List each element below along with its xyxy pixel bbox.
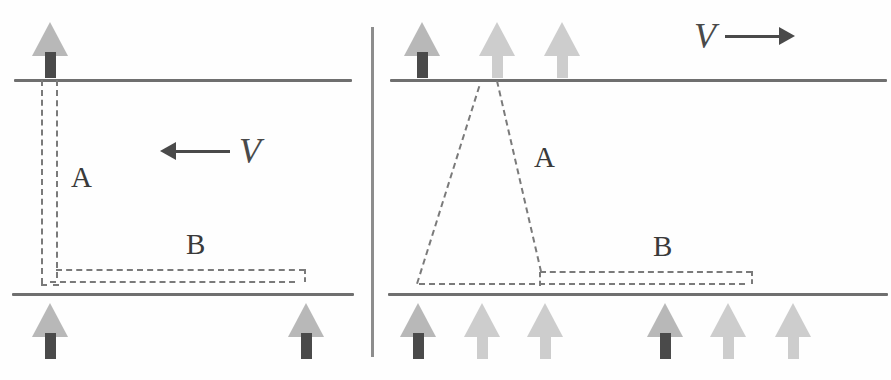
arrow-stem-icon [723,333,734,359]
wall-arrow-top-1 [32,22,68,78]
velocity-symbol: V [694,18,716,54]
upstream-migration-panel: A B V [0,0,372,380]
figure-canvas: A B V [0,0,891,380]
arrow-head-icon [544,22,580,56]
arrow-head-icon [288,303,324,337]
arrow-stem-icon [660,333,671,359]
wall-arrow-bottom-6 [775,303,811,359]
wall-arrow-bottom-5 [710,303,746,359]
arrow-head-icon [404,22,440,56]
arrow-head-icon [400,303,436,337]
wall-arrow-bottom-2 [288,303,324,359]
wall-arrow-top-3 [544,22,580,78]
trajectory-B-right-connector [304,269,306,282]
arrow-stem-icon [45,52,56,78]
trajectory-B-line-upper [56,269,305,271]
left-panel-lower-wall [12,293,354,296]
arrow-shaft-icon [725,35,779,38]
trajectory-label-A: A [71,163,92,192]
arrow-head-icon [32,22,68,56]
right-panel-lower-wall [388,293,888,296]
arrow-head-icon [32,303,68,337]
trajectory-B-line-lower [50,281,295,283]
trajectory-A-line-left [41,80,43,284]
velocity-annotation-left: V [160,133,261,169]
trajectory-B-right-connector [751,271,753,284]
downstream-migration-panel: A B V [372,0,891,380]
trajectory-label-B: B [653,232,673,261]
wall-arrow-bottom-4 [647,303,683,359]
left-panel-upper-wall [14,79,352,82]
wall-arrow-bottom-2 [464,303,500,359]
arrow-stem-icon [417,52,428,78]
wall-arrow-top-1 [404,22,440,78]
wall-arrow-bottom-1 [32,303,68,359]
trajectory-B-line-upper [540,271,752,273]
arrow-stem-icon [45,333,56,359]
wall-arrow-top-2 [479,22,515,78]
arrow-head-icon [647,303,683,337]
arrow-head-icon [527,303,563,337]
velocity-annotation-right: V [694,18,795,54]
arrow-shaft-icon [176,150,230,153]
right-panel-upper-wall [390,79,887,82]
arrow-stem-icon [788,333,799,359]
trajectory-B-line-lower [419,283,745,285]
arrow-head-icon [710,303,746,337]
arrow-stem-icon [413,333,424,359]
trajectory-A-foot-tick [41,284,59,286]
arrow-stem-icon [557,52,568,78]
trajectory-label-A: A [534,143,555,172]
arrow-head-icon [464,303,500,337]
arrow-stem-icon [492,52,503,78]
arrow-stem-icon [540,333,551,359]
arrow-right-icon [779,27,795,45]
trajectory-A-line-right [56,80,58,278]
arrow-stem-icon [477,333,488,359]
arrow-head-icon [775,303,811,337]
trajectory-A-falling-limb [496,81,542,272]
velocity-symbol: V [239,133,261,169]
arrow-head-icon [479,22,515,56]
trajectory-label-B: B [186,230,206,259]
trajectory-A-rising-limb [416,86,480,284]
wall-arrow-bottom-3 [527,303,563,359]
arrow-stem-icon [301,333,312,359]
arrow-left-icon [160,142,176,160]
wall-arrow-bottom-1 [400,303,436,359]
